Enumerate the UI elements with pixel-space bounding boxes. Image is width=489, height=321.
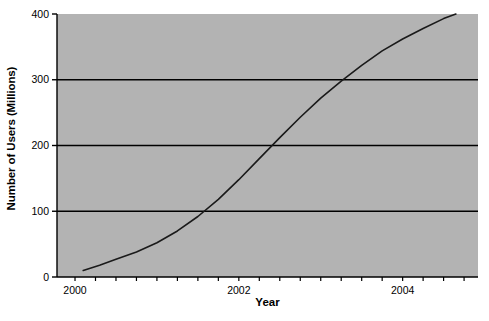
x-axis-title: Year bbox=[57, 296, 478, 308]
line-chart-plot: 0100200300400 200020022004 bbox=[0, 0, 489, 321]
x-tick-label-2002: 2002 bbox=[227, 284, 251, 296]
y-axis-ticks: 0100200300400 bbox=[31, 8, 57, 283]
y-tick-label-200: 200 bbox=[31, 139, 49, 151]
chart-figure: Number of Users (Millions) 0100200300400… bbox=[0, 0, 489, 321]
x-axis-ticks: 200020022004 bbox=[63, 277, 464, 296]
x-tick-label-2000: 2000 bbox=[63, 284, 87, 296]
y-tick-label-400: 400 bbox=[31, 8, 49, 20]
y-tick-label-300: 300 bbox=[31, 73, 49, 85]
y-tick-label-0: 0 bbox=[43, 271, 49, 283]
y-tick-label-100: 100 bbox=[31, 205, 49, 217]
x-tick-label-2004: 2004 bbox=[391, 284, 415, 296]
